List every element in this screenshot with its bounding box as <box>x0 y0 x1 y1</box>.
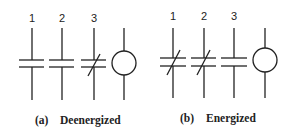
contact-b2 <box>191 28 216 98</box>
contact-label-b3: 3 <box>231 10 237 22</box>
caption-prefix-a: (a) <box>35 114 49 127</box>
coil-a <box>112 28 136 100</box>
contact-label-b1: 1 <box>170 10 176 22</box>
contact-b1 <box>160 28 186 98</box>
contact-a3 <box>81 28 106 100</box>
contact-label-b2: 2 <box>201 10 207 22</box>
contact-label-a2: 2 <box>59 12 65 24</box>
caption-a: Deenergized <box>60 114 121 127</box>
caption-prefix-b: (b) <box>180 112 194 125</box>
contact-b3 <box>221 28 247 98</box>
contact-label-a3: 3 <box>91 12 97 24</box>
contact-a2 <box>49 28 74 100</box>
relay-contacts-diagram: 1 2 3 1 2 3 (a) Deenergized (b) Energize… <box>0 0 290 132</box>
contact-a1 <box>19 28 44 100</box>
panel-b <box>160 28 277 98</box>
coil-b <box>253 28 277 98</box>
caption-b: Energized <box>206 112 256 125</box>
contact-label-a1: 1 <box>29 12 35 24</box>
panel-a <box>19 28 136 100</box>
